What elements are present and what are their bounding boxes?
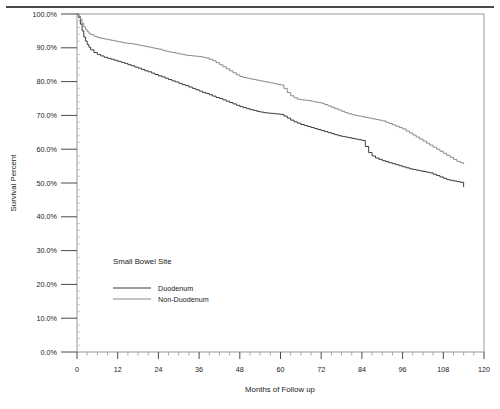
x-tick-label: 96 (399, 365, 407, 374)
y-tick-label: 60.0% (37, 145, 58, 154)
y-tick-label: 100.0% (33, 10, 58, 19)
x-tick-label: 12 (114, 365, 122, 374)
x-tick-label: 0 (75, 365, 79, 374)
plot-area-rect (77, 14, 484, 352)
y-tick-label: 70.0% (37, 111, 58, 120)
legend-label-duodenum: Duodenum (158, 284, 193, 293)
figure-container: 0.0%10.0%20.0%30.0%40.0%50.0%60.0%70.0%8… (0, 0, 500, 409)
y-tick-label: 30.0% (37, 246, 58, 255)
x-tick-label: 36 (195, 365, 203, 374)
y-tick-label: 20.0% (37, 280, 58, 289)
x-tick-label: 48 (236, 365, 244, 374)
x-tick-label: 72 (317, 365, 325, 374)
y-tick-label: 50.0% (37, 179, 58, 188)
plot-frame (77, 14, 484, 352)
x-axis-title: Months of Follow up (245, 385, 315, 394)
y-tick-label: 80.0% (37, 77, 58, 86)
x-axis: 01224364860728496108120 (75, 352, 490, 374)
x-tick-label: 60 (277, 365, 285, 374)
x-tick-label: 84 (358, 365, 366, 374)
y-axis-title: Survival Percent (9, 154, 18, 212)
y-tick-label: 90.0% (37, 43, 58, 52)
y-tick-label: 10.0% (37, 314, 58, 323)
y-axis: 0.0%10.0%20.0%30.0%40.0%50.0%60.0%70.0%8… (33, 10, 80, 357)
legend-label-non-duodenum: Non-Duodenum (158, 295, 209, 304)
y-tick-label: 40.0% (37, 212, 58, 221)
y-tick-label: 0.0% (41, 348, 58, 357)
x-tick-label: 108 (437, 365, 449, 374)
x-tick-label: 120 (478, 365, 490, 374)
survival-curve-chart: 0.0%10.0%20.0%30.0%40.0%50.0%60.0%70.0%8… (0, 0, 500, 409)
legend-title: Small Bowel Site (113, 257, 172, 266)
x-tick-label: 24 (154, 365, 162, 374)
